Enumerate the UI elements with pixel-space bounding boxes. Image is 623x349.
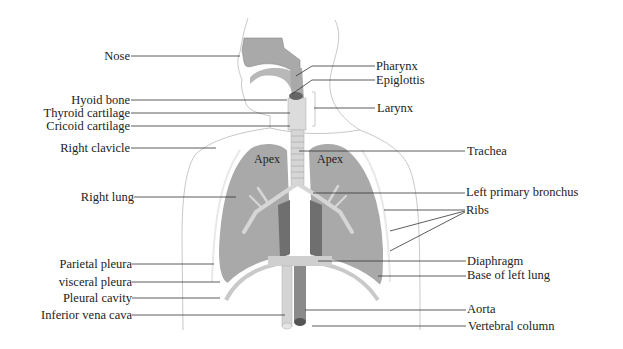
label-inferior-vena-cava: Inferior vena cava: [41, 308, 132, 322]
label-visceral-pleura: visceral pleura: [59, 275, 132, 289]
larynx-bracket: [312, 92, 315, 126]
epiglottis: [289, 92, 303, 100]
label-pleural-cavity: Pleural cavity: [63, 291, 132, 305]
label-aorta: Aorta: [467, 302, 495, 316]
label-thyroid-cartilage: Thyroid cartilage: [44, 106, 130, 120]
label-base-of-left-lung: Base of left lung: [467, 268, 550, 282]
label-apex-right-lung: Apex: [254, 152, 280, 167]
label-ribs: Ribs: [466, 203, 489, 217]
larynx: [288, 98, 306, 130]
label-pharynx: Pharynx: [376, 59, 418, 73]
left-lung-dark: [310, 200, 322, 258]
label-left-primary-bronchus: Left primary bronchus: [466, 185, 578, 199]
label-nose: Nose: [104, 49, 130, 63]
label-diaphragm: Diaphragm: [467, 254, 523, 268]
trachea: [291, 130, 304, 185]
label-right-clavicle: Right clavicle: [60, 141, 130, 155]
right-lung-dark: [278, 200, 290, 258]
label-apex-left-lung: Apex: [317, 152, 343, 167]
label-right-lung: Right lung: [81, 190, 134, 204]
label-cricoid-cartilage: Cricoid cartilage: [46, 119, 130, 133]
inferior-vena-cava: [282, 266, 292, 326]
label-trachea: Trachea: [467, 144, 507, 158]
label-parietal-pleura: Parietal pleura: [59, 257, 132, 271]
label-vertebral-column: Vertebral column: [468, 319, 554, 333]
label-hyoid-bone: Hyoid bone: [71, 93, 130, 107]
nasal-cavity: [242, 38, 300, 72]
label-epiglottis: Epiglottis: [376, 73, 425, 87]
aorta: [294, 266, 306, 322]
label-larynx: Larynx: [377, 101, 413, 115]
